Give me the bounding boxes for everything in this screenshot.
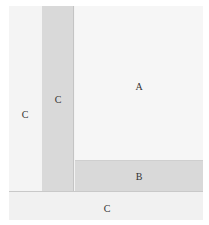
region-c-left: C [9, 6, 42, 191]
region-a-label: A [135, 81, 142, 92]
region-c-bottom-label: C [104, 203, 111, 214]
region-a: A [75, 6, 203, 160]
region-b-label: B [136, 171, 143, 182]
region-c-left-label: C [22, 109, 29, 120]
region-c-strip: C [42, 6, 74, 191]
region-c-strip-label: C [55, 94, 62, 105]
region-b: B [75, 160, 203, 191]
region-c-bottom: C [9, 191, 203, 220]
